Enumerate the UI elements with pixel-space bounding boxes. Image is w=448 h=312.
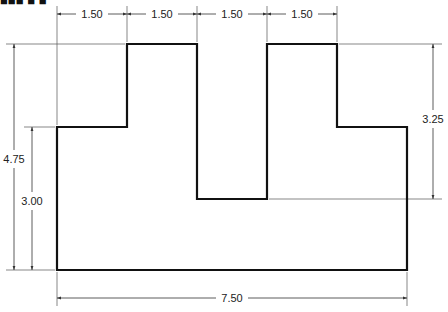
dim-top-2: 1.50 [151,8,172,20]
dim-top-1: 1.50 [81,8,102,20]
extension-lines [6,6,442,306]
dim-overall-height: 4.75 [3,153,24,165]
dim-top-4: 1.50 [291,8,312,20]
part-outline [57,44,407,270]
dim-notch-depth: 3.25 [422,113,443,125]
dim-step-height: 3.00 [21,195,42,207]
technical-drawing: 1.50 1.50 1.50 1.50 4.75 3.00 3.25 7.50 [0,0,448,312]
dim-overall-width: 7.50 [221,292,242,304]
dim-top-3: 1.50 [221,8,242,20]
